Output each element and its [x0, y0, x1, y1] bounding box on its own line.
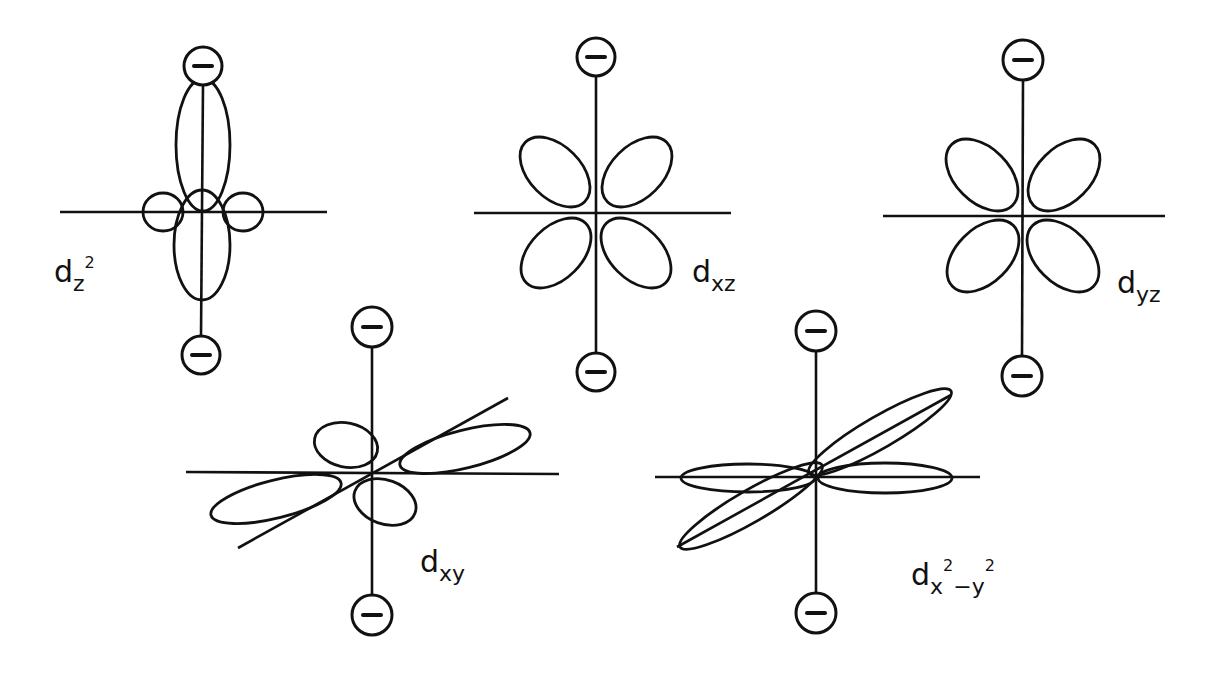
label-dxy: dxy: [420, 547, 465, 585]
ligand-minus-icon: [1003, 40, 1043, 80]
lobe: [934, 207, 1033, 306]
orbital-dyz: [883, 40, 1165, 396]
lobe: [508, 205, 604, 301]
y-axis-line: [677, 395, 951, 547]
lobe: [589, 124, 685, 220]
z-axis-line: [1022, 80, 1023, 357]
orbital-dxz: [474, 38, 731, 391]
lobe: [1014, 207, 1113, 306]
lobe: [588, 205, 684, 301]
label-dxz: dxz: [692, 257, 736, 295]
orbital-dz2: [60, 47, 327, 374]
ligand-minus-icon: [184, 47, 222, 85]
ligand-minus-icon: [182, 336, 220, 374]
lobe: [507, 124, 603, 220]
ligand-minus-icon: [352, 595, 392, 635]
d-orbitals-diagram: [0, 0, 1227, 677]
ligand-minus-icon: [577, 38, 615, 76]
orbital-dxy: [186, 307, 559, 635]
label-dz2: dz2: [54, 257, 95, 295]
ligand-minus-icon: [796, 311, 836, 351]
ligand-minus-icon: [1002, 356, 1042, 396]
lobe: [933, 126, 1032, 225]
ligand-minus-icon: [796, 593, 836, 633]
label-dx2-y2: dx2−y2: [911, 560, 995, 598]
ligand-minus-icon: [577, 353, 615, 391]
lobe: [1015, 126, 1114, 225]
ligand-minus-icon: [352, 307, 392, 347]
label-dyz: dyz: [1117, 268, 1161, 306]
